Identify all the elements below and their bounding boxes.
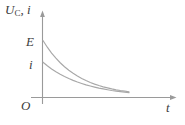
curve-capacitor-voltage (43, 40, 129, 91)
x-axis-label: t (166, 101, 170, 114)
y-axis-label-second: i (27, 2, 31, 17)
y-axis (40, 11, 45, 105)
y-axis-label-comma: , (20, 2, 23, 17)
label-initial-voltage-E: E (26, 35, 34, 48)
x-axis (31, 95, 177, 100)
y-axis-label: UC, i (5, 3, 31, 18)
decay-curve-figure: UC, i E i O t (0, 0, 185, 125)
y-axis-label-main: U (5, 2, 14, 17)
curve-current (43, 62, 129, 92)
origin-label: O (21, 99, 30, 112)
label-initial-current-i: i (29, 58, 33, 71)
